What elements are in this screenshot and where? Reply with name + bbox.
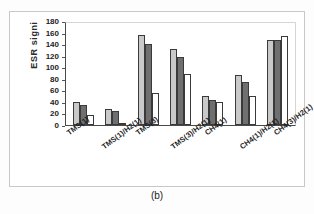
figure-container: ESR signi 180160140120100806040200 TMS(1… — [0, 0, 314, 214]
bar[interactable] — [112, 111, 119, 125]
chart-plot-frame: ESR signi 180160140120100806040200 TMS(1… — [9, 11, 305, 187]
bar-group — [235, 23, 256, 125]
bar[interactable] — [170, 49, 177, 125]
bar[interactable] — [267, 40, 274, 126]
y-axis-tick-0: 0 — [55, 122, 59, 130]
bar[interactable] — [105, 109, 112, 125]
bar[interactable] — [177, 57, 184, 125]
plot-area-wrapper: 180160140120100806040200 — [41, 22, 296, 128]
bar[interactable] — [235, 75, 242, 125]
y-axis-tick-100: 100 — [46, 64, 59, 72]
y-axis-tick-20: 20 — [50, 110, 59, 118]
bar-group — [267, 23, 288, 125]
y-axis-tick-140: 140 — [46, 41, 59, 49]
bar[interactable] — [242, 82, 249, 125]
bar-group — [138, 23, 159, 125]
y-axis-tick-mark — [62, 126, 65, 127]
y-axis-tick-80: 80 — [50, 76, 59, 84]
bar[interactable] — [274, 40, 281, 126]
bar[interactable] — [138, 35, 145, 125]
plot-area — [65, 22, 296, 126]
bar[interactable] — [184, 74, 191, 125]
y-axis-tick-180: 180 — [46, 18, 59, 26]
y-axis-tick-120: 120 — [46, 53, 59, 61]
y-axis-tick-60: 60 — [50, 87, 59, 95]
bar[interactable] — [249, 96, 256, 125]
bar-group — [105, 23, 126, 125]
y-axis-tick-labels: 180160140120100806040200 — [41, 22, 62, 128]
y-axis-tick-160: 160 — [46, 30, 59, 38]
bar[interactable] — [145, 44, 152, 125]
bar[interactable] — [281, 36, 288, 125]
y-axis-title: ESR signi — [27, 9, 41, 81]
bar-group — [73, 23, 94, 125]
figure-caption: (b) — [0, 190, 314, 201]
bar-group — [170, 23, 191, 125]
bar-group — [202, 23, 223, 125]
y-axis-tick-40: 40 — [50, 99, 59, 107]
bar-groups — [66, 23, 295, 125]
x-axis-tick-labels: TMS(1)TMS(1)/H2(1)TMS(3)TMS(3)/H2(1)CH4(… — [65, 130, 314, 192]
